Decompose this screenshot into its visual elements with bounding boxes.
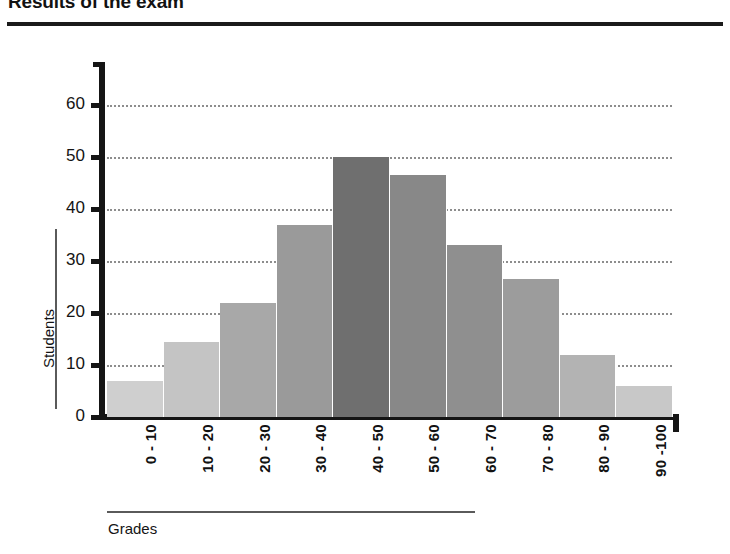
x-tick-label: 40 - 50 <box>369 424 386 514</box>
y-tick-10 <box>91 363 105 368</box>
y-tick-label: 40 <box>41 198 85 218</box>
y-tick-50 <box>91 155 105 160</box>
y-tick-label: 0 <box>41 406 85 426</box>
y-tick-60 <box>91 103 105 108</box>
bar-40-50 <box>333 157 390 417</box>
y-tick-30 <box>91 259 105 264</box>
y-tick-40 <box>91 207 105 212</box>
y-tick-label: 60 <box>41 94 85 114</box>
bar-60-70 <box>447 245 504 417</box>
y-axis-label: Students <box>40 279 57 399</box>
x-tick-label: 90 -100 <box>652 424 669 514</box>
bar-0-10 <box>107 381 164 417</box>
bar-50-60 <box>390 175 447 417</box>
bar-70-80 <box>503 279 560 417</box>
x-tick-label: 80 - 90 <box>595 424 612 514</box>
y-tick-label: 50 <box>41 146 85 166</box>
y-axis-top-cap <box>93 62 105 67</box>
bar-80-90 <box>560 355 617 417</box>
y-tick-0 <box>91 415 105 420</box>
bar-series <box>107 62 673 417</box>
bar-20-30 <box>220 303 277 417</box>
x-tick-label: 50 - 60 <box>425 424 442 514</box>
bar-10-20 <box>164 342 221 417</box>
bar-30-40 <box>277 225 334 417</box>
x-tick-label: 0 - 10 <box>142 424 159 514</box>
x-tick-label: 60 - 70 <box>482 424 499 514</box>
x-tick-label: 30 - 40 <box>312 424 329 514</box>
x-tick-label: 10 - 20 <box>199 424 216 514</box>
chart-plot-area: 0102030405060 0 - 1010 - 2020 - 3030 - 4… <box>0 0 730 554</box>
y-tick-20 <box>91 311 105 316</box>
bar-90-100 <box>616 386 673 417</box>
x-axis-label: Grades <box>108 520 157 537</box>
x-axis-label-rule <box>107 511 475 513</box>
x-tick-label: 20 - 30 <box>256 424 273 514</box>
x-tick-label: 70 - 80 <box>539 424 556 514</box>
x-axis-end-cap <box>673 414 679 432</box>
y-tick-label: 30 <box>41 250 85 270</box>
